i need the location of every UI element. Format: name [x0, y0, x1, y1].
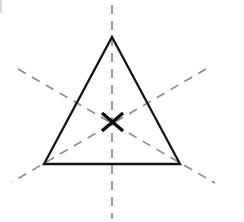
- symmetry-diagram: [0, 0, 244, 222]
- edge-crop-remnant-icon: [0, 0, 2, 13]
- figure-canvas: [0, 0, 244, 222]
- figure-background: [0, 0, 244, 222]
